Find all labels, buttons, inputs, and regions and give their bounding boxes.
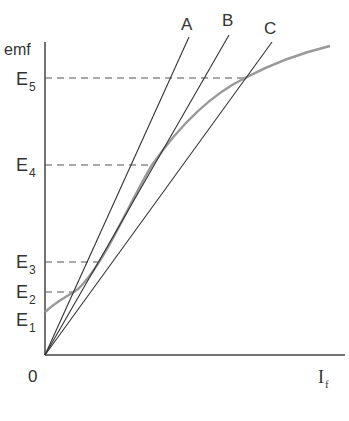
svg-text:3: 3 — [29, 263, 36, 277]
magnetization-curve — [45, 46, 330, 312]
svg-text:I: I — [318, 367, 324, 387]
svg-text:E: E — [16, 155, 28, 175]
svg-text:5: 5 — [29, 80, 36, 94]
resistance-line-a — [45, 37, 189, 355]
svg-text:E: E — [16, 282, 28, 302]
emf-vs-field-current-diagram: A B C emf E 5 E 4 E 3 E 2 E 1 0 I f — [0, 0, 349, 421]
svg-text:E: E — [16, 310, 28, 330]
line-b-label: B — [222, 11, 233, 30]
e4-label: E 4 — [16, 155, 36, 180]
line-a-label: A — [181, 15, 193, 34]
svg-text:E: E — [16, 252, 28, 272]
x-axis-label: I f — [318, 367, 329, 390]
y-axis-label: emf — [4, 41, 31, 58]
svg-text:1: 1 — [29, 321, 36, 335]
svg-text:E: E — [16, 69, 28, 89]
svg-text:2: 2 — [29, 293, 36, 307]
emf-level-lines — [45, 78, 245, 292]
resistance-line-b — [45, 35, 229, 355]
e1-label: E 1 — [16, 310, 36, 335]
svg-text:4: 4 — [29, 166, 36, 180]
e3-label: E 3 — [16, 252, 36, 277]
origin-label: 0 — [28, 367, 37, 386]
e2-label: E 2 — [16, 282, 36, 307]
svg-text:f: f — [325, 378, 329, 390]
resistance-line-c — [45, 42, 272, 355]
e5-label: E 5 — [16, 69, 36, 94]
line-c-label: C — [264, 19, 276, 38]
